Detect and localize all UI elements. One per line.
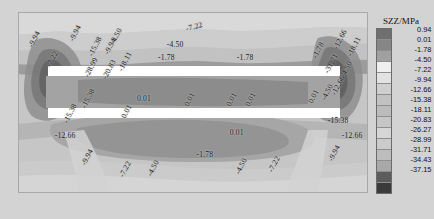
colorbar-swatch bbox=[377, 106, 391, 117]
legend-body: 0.940.01-1.78-4.50-7.22-9.94-12.66-15.38… bbox=[372, 28, 432, 194]
colorbar-swatch bbox=[377, 84, 391, 95]
lower-opening bbox=[48, 108, 340, 118]
colorbar-tick-label: 0.01 bbox=[395, 36, 431, 44]
colorbar-swatch bbox=[377, 139, 391, 150]
colorbar-tick-label: 0.94 bbox=[395, 26, 431, 34]
pillar-core bbox=[78, 78, 308, 106]
colorbar-ticks: 0.940.01-1.78-4.50-7.22-9.94-12.66-15.38… bbox=[395, 28, 432, 178]
colorbar-tick-label: -18.11 bbox=[395, 106, 431, 114]
colorbar-swatch bbox=[377, 128, 391, 139]
colorbar-tick-label: -28.99 bbox=[395, 136, 431, 144]
colorbar-swatches bbox=[376, 28, 392, 194]
colorbar-swatch bbox=[377, 117, 391, 128]
colorbar-tick-label: -31.71 bbox=[395, 146, 431, 154]
colorbar-swatch bbox=[377, 150, 391, 161]
colorbar-swatch bbox=[377, 161, 391, 172]
upper-opening bbox=[48, 66, 340, 76]
colorbar-tick-label: -9.94 bbox=[395, 76, 431, 84]
colorbar-tick-label: -37.15 bbox=[395, 166, 431, 174]
colorbar-swatch bbox=[377, 62, 391, 73]
colorbar-tick-label: -15.38 bbox=[395, 96, 431, 104]
colorbar-swatch bbox=[377, 29, 391, 40]
colorbar-tick-label: -12.66 bbox=[395, 86, 431, 94]
colorbar-tick-label: -4.50 bbox=[395, 56, 431, 64]
colorbar-tick-label: -1.78 bbox=[395, 46, 431, 54]
colorbar-tick-label: -20.83 bbox=[395, 116, 431, 124]
colorbar-swatch bbox=[377, 183, 391, 193]
colorbar-tick-label: -26.27 bbox=[395, 126, 431, 134]
colorbar-swatch bbox=[377, 40, 391, 51]
figure-root: -9.94-7.22-15.38-15.38-12.66-9.94-7.22-4… bbox=[0, 0, 434, 219]
colorbar-tick-label: -34.43 bbox=[395, 156, 431, 164]
colorbar-swatch bbox=[377, 95, 391, 106]
colorbar-swatch bbox=[377, 51, 391, 62]
contour-plot: -9.94-7.22-15.38-15.38-12.66-9.94-7.22-4… bbox=[18, 12, 368, 193]
colorbar-swatch bbox=[377, 172, 391, 183]
colorbar-tick-label: -7.22 bbox=[395, 66, 431, 74]
contour-field bbox=[18, 12, 368, 193]
legend: SZZ/MPa 0.940.01-1.78-4.50-7.22-9.94-12.… bbox=[372, 16, 432, 194]
colorbar-swatch bbox=[377, 73, 391, 84]
